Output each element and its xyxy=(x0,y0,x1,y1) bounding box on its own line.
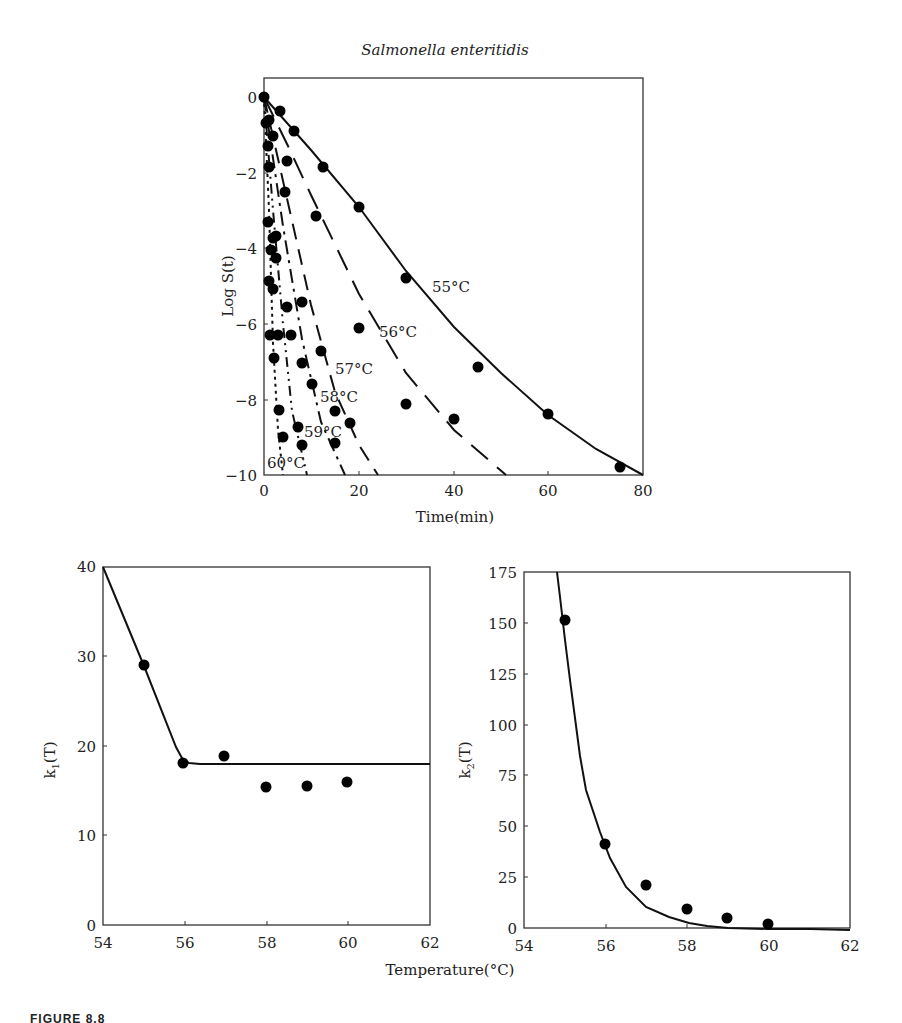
figure-canvas: Salmonella enteritidis 0 −2 −4 −6 −8 −10… xyxy=(0,0,902,1023)
k2-data-points xyxy=(560,615,774,930)
x-tick-label: 60 xyxy=(759,937,778,955)
y-tick-label: 30 xyxy=(77,648,96,666)
y-axis-ticks: 175 150 125 100 75 50 25 0 xyxy=(488,564,528,938)
x-tick-label: 62 xyxy=(420,934,439,952)
chart-title: Salmonella enteritidis xyxy=(361,41,529,59)
shared-x-axis-label: Temperature(°C) xyxy=(386,961,515,979)
x-tick-label: 20 xyxy=(349,482,368,500)
k1-chart: 40 30 20 10 0 54 56 58 60 62 k1(T) xyxy=(41,558,440,952)
curve-label-58c: 58°C xyxy=(320,388,358,406)
y-tick-label: 10 xyxy=(77,827,96,845)
y-tick-label: 25 xyxy=(498,869,517,887)
x-tick-label: 62 xyxy=(840,937,859,955)
y-tick-label: −4 xyxy=(235,240,257,258)
y-tick-label: 175 xyxy=(488,564,517,582)
top-chart: Salmonella enteritidis 0 −2 −4 −6 −8 −10… xyxy=(219,41,653,526)
x-axis-label: Time(min) xyxy=(416,508,494,526)
y-tick-label: 75 xyxy=(498,767,517,785)
curve-label-60c: 60°C xyxy=(267,454,305,472)
y-tick-label: −10 xyxy=(225,467,257,485)
x-tick-label: 60 xyxy=(538,482,557,500)
x-tick-label: 60 xyxy=(338,934,357,952)
curve-label-56c: 56°C xyxy=(379,323,417,341)
y-tick-label: 100 xyxy=(488,717,517,735)
y-tick-label: −2 xyxy=(235,165,257,183)
k1-data-points xyxy=(139,660,353,793)
plot-frame xyxy=(524,572,850,928)
x-tick-label: 54 xyxy=(93,934,112,952)
x-tick-label: 40 xyxy=(444,482,463,500)
curve-label-57c: 57°C xyxy=(335,360,373,378)
y-tick-label: 20 xyxy=(77,738,96,756)
y-tick-label: 0 xyxy=(86,917,96,935)
y-tick-label: 0 xyxy=(507,920,517,938)
figure-caption: FIGURE 8.8 xyxy=(30,1012,105,1023)
y-tick-label: −8 xyxy=(235,392,257,410)
x-tick-label: 56 xyxy=(596,937,615,955)
x-axis-ticks: 54 56 58 60 62 xyxy=(93,921,439,952)
x-tick-label: 58 xyxy=(677,937,696,955)
k2-fit-curve xyxy=(557,572,850,930)
x-tick-label: 56 xyxy=(175,934,194,952)
x-tick-label: 54 xyxy=(514,937,533,955)
curve-label-59c: 59°C xyxy=(304,423,342,441)
x-tick-label: 58 xyxy=(257,934,276,952)
y-tick-label: 0 xyxy=(247,89,257,107)
k1-fit-curve xyxy=(103,567,430,764)
x-tick-label: 80 xyxy=(633,482,652,500)
curve-label-55c: 55°C xyxy=(432,278,470,296)
y-axis-label: Log S(t) xyxy=(219,255,237,316)
plot-frame xyxy=(103,567,430,925)
k2-chart: 175 150 125 100 75 50 25 0 54 56 58 60 6… xyxy=(456,564,860,955)
y-tick-label: 150 xyxy=(488,615,517,633)
y-tick-label: −6 xyxy=(235,316,257,334)
y-tick-label: 50 xyxy=(498,818,517,836)
y-axis-label: k1(T) xyxy=(41,741,61,778)
y-axis-label: k2(T) xyxy=(456,741,476,778)
x-tick-label: 0 xyxy=(259,482,269,500)
y-tick-label: 40 xyxy=(77,558,96,576)
y-tick-label: 125 xyxy=(488,666,517,684)
